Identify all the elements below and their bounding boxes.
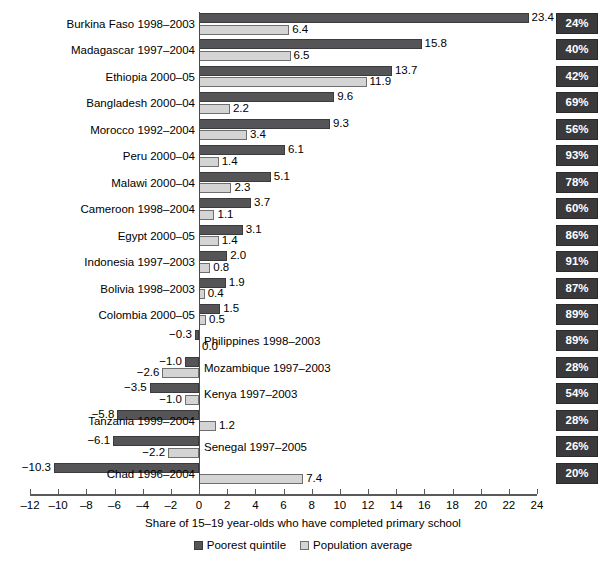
chart-row: 5.12.3Malawi 2000–04 xyxy=(0,171,606,198)
category-label: Malawi 2000–04 xyxy=(111,177,195,189)
percent-badge: 40% xyxy=(556,39,598,60)
category-label: Ethiopia 2000–05 xyxy=(105,71,195,83)
x-tick-label: 2 xyxy=(212,499,242,511)
category-label: Cameroon 1998–2004 xyxy=(81,203,195,215)
percent-badge: 20% xyxy=(556,463,598,484)
bar-poorest-quintile xyxy=(113,436,199,446)
chart-row: 3.11.4Egypt 2000–05 xyxy=(0,224,606,251)
value-label-poorest: 5.1 xyxy=(274,171,290,182)
x-tick-label: –6 xyxy=(100,499,130,511)
legend-item: Poorest quintile xyxy=(194,539,286,551)
chart-row: −6.1−2.2Senegal 1997–2005 xyxy=(0,435,606,462)
value-label-poorest: −3.5 xyxy=(124,382,147,393)
x-tick xyxy=(86,489,87,494)
bar-population-average xyxy=(199,315,206,325)
value-label-average: 6.4 xyxy=(292,24,308,35)
x-tick xyxy=(199,489,200,494)
x-tick xyxy=(255,489,256,494)
category-label: Egypt 2000–05 xyxy=(118,230,195,242)
x-tick-label: –10 xyxy=(43,499,73,511)
bar-population-average xyxy=(168,448,199,458)
x-axis-title: Share of 15–19 year-olds who have comple… xyxy=(0,517,606,529)
legend-item: Population average xyxy=(300,539,412,551)
category-label: Indonesia 1997–2003 xyxy=(84,256,195,268)
value-label-poorest: 2.0 xyxy=(230,250,246,261)
x-tick xyxy=(368,489,369,494)
value-label-average: 0.5 xyxy=(209,314,225,325)
value-label-average: 1.2 xyxy=(219,420,235,431)
value-label-average: 2.2 xyxy=(233,103,249,114)
chart-row: −0.30.0Philippines 1998–2003 xyxy=(0,329,606,356)
percent-badge: 86% xyxy=(556,225,598,246)
chart-row: 1.90.4Bolivia 1998–2003 xyxy=(0,277,606,304)
bar-population-average xyxy=(199,236,219,246)
chart-row: −10.37.4Chad 1996–2004 xyxy=(0,462,606,489)
bar-population-average xyxy=(199,421,216,431)
x-tick xyxy=(340,489,341,494)
percent-badge: 28% xyxy=(556,410,598,431)
x-tick-label: 6 xyxy=(269,499,299,511)
value-label-poorest: 1.9 xyxy=(229,277,245,288)
percent-badge: 60% xyxy=(556,198,598,219)
x-tick xyxy=(143,489,144,494)
chart-row: 6.11.4Peru 2000–04 xyxy=(0,144,606,171)
bar-population-average xyxy=(199,210,214,220)
legend-label: Poorest quintile xyxy=(207,539,286,551)
chart-row: 9.33.4Morocco 1992–2004 xyxy=(0,118,606,145)
bar-poorest-quintile xyxy=(199,172,271,182)
x-tick xyxy=(396,489,397,494)
bar-population-average xyxy=(162,368,199,378)
x-tick xyxy=(171,489,172,494)
x-tick-label: 16 xyxy=(409,499,439,511)
value-label-poorest: −10.3 xyxy=(22,462,51,473)
percent-badge: 28% xyxy=(556,357,598,378)
value-label-poorest: 9.3 xyxy=(333,118,349,129)
bar-population-average xyxy=(185,395,199,405)
x-tick-label: 4 xyxy=(240,499,270,511)
x-tick-label: 20 xyxy=(466,499,496,511)
category-label: Philippines 1998–2003 xyxy=(204,335,320,347)
plot-area: 23.46.4Burkina Faso 1998–200315.86.5Mada… xyxy=(0,0,606,500)
category-label: Chad 1996–2004 xyxy=(107,468,195,480)
x-tick xyxy=(509,489,510,494)
legend-swatch-average-icon xyxy=(300,541,309,550)
bar-poorest-quintile xyxy=(199,66,392,76)
percent-badge: 78% xyxy=(556,172,598,193)
zero-axis-line xyxy=(199,12,201,494)
legend-swatch-poorest-icon xyxy=(194,541,203,550)
percent-badge: 87% xyxy=(556,278,598,299)
category-label: Colombia 2000–05 xyxy=(98,309,195,321)
category-label: Burkina Faso 1998–2003 xyxy=(66,18,195,30)
bar-population-average xyxy=(199,51,291,61)
x-tick xyxy=(453,489,454,494)
value-label-poorest: 6.1 xyxy=(288,144,304,155)
value-label-poorest: −0.3 xyxy=(169,329,192,340)
value-label-poorest: 23.4 xyxy=(532,12,554,23)
chart-row: 15.86.5Madagascar 1997–2004 xyxy=(0,38,606,65)
value-label-average: 3.4 xyxy=(250,129,266,140)
value-label-average: −2.2 xyxy=(142,447,165,458)
x-tick-label: –12 xyxy=(15,499,45,511)
bar-population-average xyxy=(199,77,367,87)
x-tick xyxy=(424,489,425,494)
x-tick xyxy=(115,489,116,494)
bar-population-average xyxy=(199,157,219,167)
percent-badge: 91% xyxy=(556,251,598,272)
x-tick-label: 22 xyxy=(494,499,524,511)
percent-badge: 54% xyxy=(556,383,598,404)
value-label-poorest: −1.0 xyxy=(159,356,182,367)
value-label-average: 0.8 xyxy=(213,262,229,273)
x-tick-label: 10 xyxy=(325,499,355,511)
chart-row: 1.50.5Colombia 2000–05 xyxy=(0,303,606,330)
x-tick-label: 0 xyxy=(184,499,214,511)
value-label-average: 11.9 xyxy=(370,76,392,87)
category-label: Senegal 1997–2005 xyxy=(204,441,307,453)
category-label: Tanzania 1999–2004 xyxy=(88,415,195,427)
legend-label: Population average xyxy=(313,539,412,551)
value-label-poorest: 3.7 xyxy=(254,197,270,208)
chart-row: 23.46.4Burkina Faso 1998–2003 xyxy=(0,12,606,39)
bar-poorest-quintile xyxy=(199,39,422,49)
bar-poorest-quintile xyxy=(199,304,220,314)
value-label-average: 0.4 xyxy=(208,288,224,299)
category-label: Bolivia 1998–2003 xyxy=(100,283,195,295)
